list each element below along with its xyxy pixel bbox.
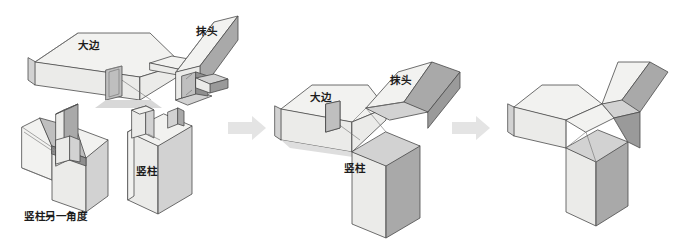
label-dabian-exploded: 大边 [78, 40, 99, 51]
part-shuzhu-alt-exploded [22, 104, 108, 212]
label-motou-assembly: 抹头 [390, 75, 411, 86]
label-shuzhu-assembly: 竖柱 [344, 163, 365, 174]
assembly-finished [508, 62, 668, 226]
diagram-canvas: .st{stroke:#4a4a4a;stroke-width:0.8;stro… [0, 0, 673, 239]
arrow-2 [452, 116, 490, 140]
arrow-1 [228, 116, 266, 140]
joinery-diagram: .st{stroke:#4a4a4a;stroke-width:0.8;stro… [0, 0, 673, 239]
label-dabian-assembly: 大边 [310, 92, 331, 103]
part-shuzhu-exploded [128, 106, 192, 214]
label-motou-exploded: 抹头 [196, 26, 217, 37]
assembly-partial [275, 62, 460, 238]
caption-shuzhu-alternate-view: 竖柱另一角度 [24, 211, 87, 222]
label-shuzhu-exploded: 竖柱 [136, 166, 157, 177]
part-dabian-exploded [28, 33, 200, 108]
